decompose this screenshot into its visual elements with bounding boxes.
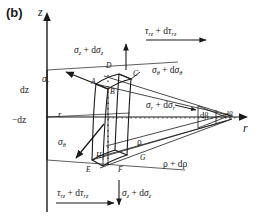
- vertex-label-C: C: [133, 70, 138, 78]
- label-sigma-r-left: σr: [42, 75, 49, 85]
- panel-tag: (b): [6, 6, 23, 19]
- label-tau-rz-top: τrz + dτrz: [145, 27, 176, 37]
- label-sigma-theta-top: σθ + dσθ: [152, 66, 182, 76]
- label-sigma-z-bottom: σz + dσz: [122, 189, 151, 199]
- vertex-label-F: F: [118, 166, 123, 174]
- dimension-rho-plus-drho: ρ + dρ: [163, 160, 187, 170]
- dimension-radius-r: r: [58, 110, 62, 119]
- label-tau-rz-bottom: τrz + dτrz: [57, 189, 88, 199]
- dimension-dz-upper: dz: [20, 86, 29, 96]
- vertex-label-H: H: [96, 152, 101, 160]
- label-sigma-z-top: σz + dσz: [74, 46, 103, 56]
- label-sigma-theta-left: σθ: [58, 138, 66, 148]
- label-sigma-r-right: σr + dσr: [146, 101, 175, 111]
- vertex-label-G: G: [140, 154, 145, 162]
- arrow-sigma-r-right: [175, 105, 196, 110]
- dimension-dbeta-apex: dβ: [225, 111, 233, 119]
- vertex-label-B: B: [110, 88, 115, 96]
- dimension-rho: ρ: [137, 138, 142, 148]
- dimension-dbeta: dβ: [200, 111, 209, 120]
- r-axis-label: r: [243, 122, 248, 134]
- vertex-label-A: A: [91, 78, 96, 86]
- vertex-label-D: D: [106, 62, 111, 70]
- z-axis-label: z: [38, 6, 43, 18]
- dimension-dz-lower: −dz: [12, 116, 26, 126]
- stress-element-figure: [0, 0, 262, 217]
- vertex-label-E: E: [86, 166, 91, 174]
